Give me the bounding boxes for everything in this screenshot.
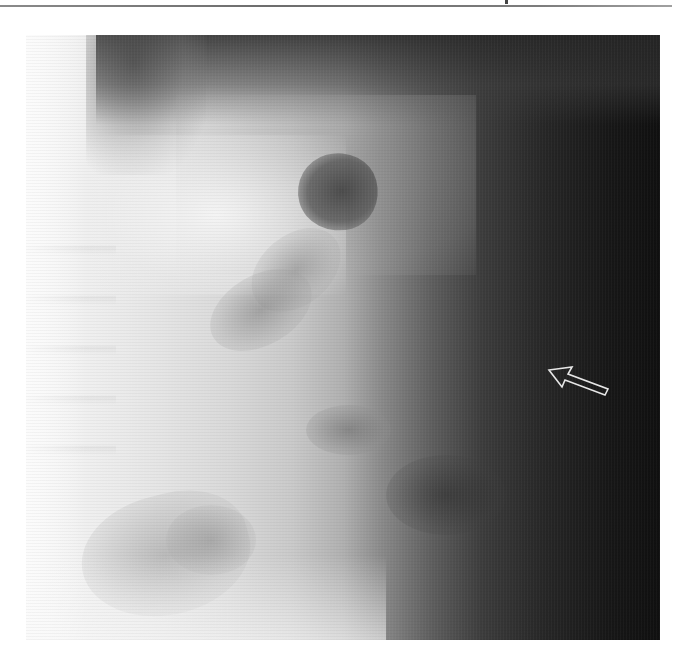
upper-bright-region: [86, 135, 346, 295]
arrow-icon: [546, 364, 612, 398]
header-text-fragment: [505, 0, 508, 4]
left-bright-edge: [26, 35, 86, 640]
upper-left-shadow: [86, 35, 206, 175]
bowel-loop-shadow-4: [68, 475, 263, 635]
upper-gray-region: [176, 95, 476, 275]
bowel-loop-shadow-2: [196, 252, 326, 368]
dark-upper-band: [96, 35, 660, 125]
soft-tissue-shadow: [386, 455, 506, 535]
bowel-loop-shadow-5: [166, 505, 256, 575]
bowel-loop-shadow-3: [306, 405, 391, 455]
header-rule-divider: [0, 5, 672, 7]
page: [0, 0, 676, 660]
bowel-loop-shadow-1: [235, 211, 357, 329]
gas-bubble-shadow: [289, 144, 386, 240]
radiograph-image: [26, 35, 660, 640]
bottom-bright-region: [26, 555, 386, 640]
film-grain-texture: [26, 35, 660, 640]
vertebral-column: [26, 205, 116, 485]
